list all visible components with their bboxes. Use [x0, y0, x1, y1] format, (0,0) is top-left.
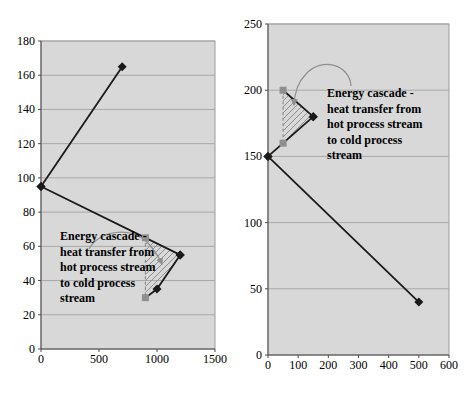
chart-1: 0501001502002500100200300400500600 — [244, 17, 458, 372]
y-tick-label: 140 — [17, 102, 35, 116]
y-tick-label: 100 — [17, 171, 35, 185]
plot-area — [268, 24, 449, 355]
y-tick-label: 180 — [17, 34, 35, 48]
x-tick-label: 500 — [90, 352, 108, 366]
temperature-enthalpy-charts: 0204060801001201401601800500100015000501… — [0, 0, 469, 398]
x-tick-label: 200 — [319, 358, 337, 372]
y-tick-label: 60 — [23, 239, 35, 253]
y-tick-label: 20 — [23, 308, 35, 322]
y-tick-label: 50 — [250, 282, 262, 296]
x-tick-label: 1000 — [145, 352, 169, 366]
y-tick-label: 40 — [23, 274, 35, 288]
x-tick-label: 0 — [38, 352, 44, 366]
marker-square — [280, 140, 287, 147]
y-tick-label: 100 — [244, 216, 262, 230]
x-tick-label: 500 — [410, 358, 428, 372]
x-tick-label: 100 — [289, 358, 307, 372]
figure-canvas: 0204060801001201401601800500100015000501… — [0, 0, 469, 398]
x-tick-label: 400 — [380, 358, 398, 372]
chart-0: 020406080100120140160180050010001500 — [17, 34, 227, 366]
x-tick-label: 1500 — [203, 352, 227, 366]
y-tick-label: 200 — [244, 83, 262, 97]
y-tick-label: 250 — [244, 17, 262, 31]
y-tick-label: 80 — [23, 205, 35, 219]
x-tick-label: 0 — [265, 358, 271, 372]
y-tick-label: 160 — [17, 68, 35, 82]
marker-square — [280, 87, 287, 94]
x-tick-label: 600 — [440, 358, 458, 372]
x-tick-label: 300 — [350, 358, 368, 372]
annotation-energy-cascade-left: Energy cascade - heat transfer from hot … — [60, 229, 156, 307]
y-tick-label: 0 — [29, 342, 35, 356]
y-tick-label: 0 — [256, 348, 262, 362]
y-tick-label: 120 — [17, 137, 35, 151]
annotation-energy-cascade-right: Energy cascade - heat transfer from hot … — [327, 86, 423, 164]
y-tick-label: 150 — [244, 149, 262, 163]
